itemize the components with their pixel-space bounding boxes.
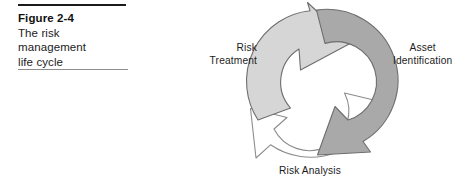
figure-number-label: Figure 2-4 [18,11,130,26]
figure-caption-block: Figure 2-4 The risk management life cycl… [18,4,130,69]
caption-line-1: The risk [18,26,130,41]
cycle-label-asset-identification: Asset Identification [393,42,452,67]
caption-top-rule [18,4,126,6]
cycle-label-risk-analysis: Risk Analysis [279,165,341,178]
risk-analysis-line-1: Risk Analysis [279,165,341,178]
figure-page: Figure 2-4 The risk management life cycl… [0,0,455,189]
caption-line-2: management [18,40,130,55]
figure-caption-label: The risk management life cycle [18,26,130,70]
asset-identification-arrow [317,9,398,155]
asset-identification-line-2: Identification [393,55,452,68]
caption-bottom-rule [18,69,128,70]
asset-identification-line-1: Asset [393,42,452,55]
risk-treatment-line-1: Risk [210,42,257,55]
risk-management-cycle-diagram: Risk Treatment Asset Identification Risk… [195,0,455,189]
cycle-label-risk-treatment: Risk Treatment [210,42,257,67]
caption-line-3: life cycle [18,55,130,70]
cycle-arrows-graphic [195,0,455,189]
risk-treatment-line-2: Treatment [210,55,257,68]
